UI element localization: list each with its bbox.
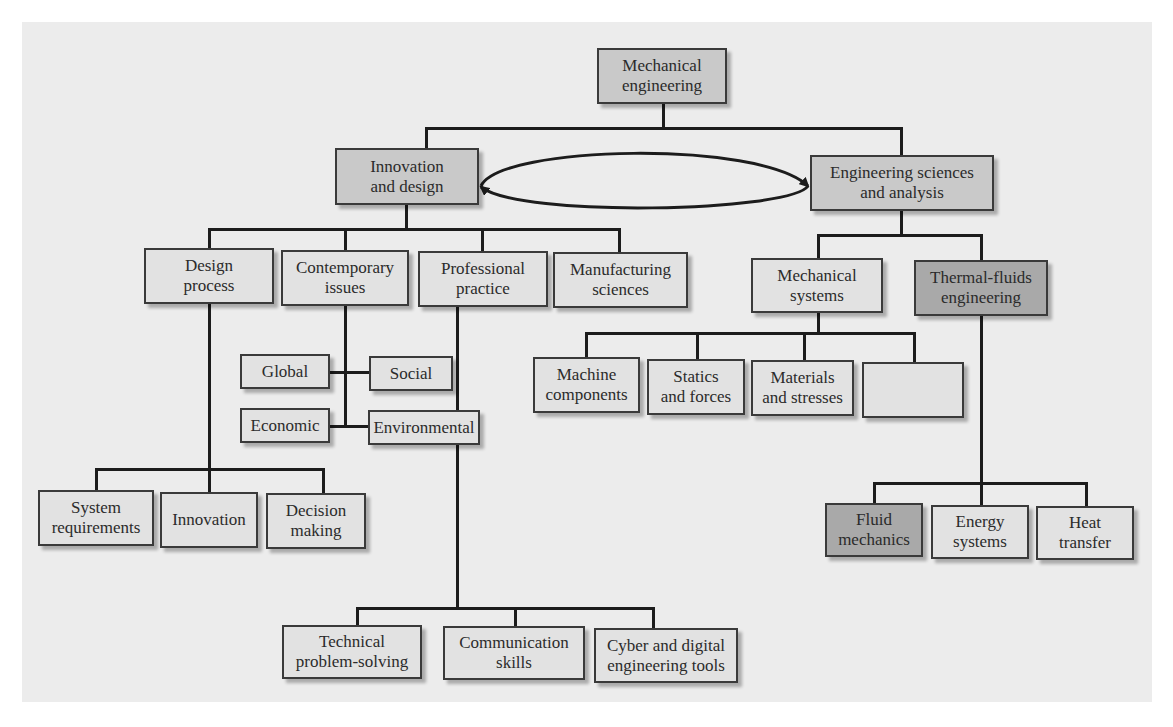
node-heat-transfer: Heat transfer: [1036, 506, 1134, 560]
node-contemporary-issues: Contemporary issues: [281, 250, 409, 306]
node-technical-problem-solving: Technical problem-solving: [282, 625, 422, 679]
node-professional-practice: Professional practice: [418, 251, 548, 307]
node-thermal-fluids-engineering: Thermal-fluids engineering: [914, 260, 1048, 316]
node-innovation: Innovation: [160, 492, 258, 548]
node-manufacturing-sciences: Manufacturing sciences: [553, 252, 688, 308]
node-decision-making: Decision making: [266, 493, 366, 549]
node-communication-skills: Communication skills: [443, 626, 585, 680]
node-global: Global: [240, 354, 330, 389]
node-mechanical-systems: Mechanical systems: [751, 258, 883, 313]
node-system-requirements: System requirements: [38, 490, 154, 546]
node-machine-components: Machine components: [533, 357, 640, 413]
node-motion-and-dynamics: [862, 362, 964, 418]
node-cyber-and-digital-engineering-tools: Cyber and digital engineering tools: [594, 628, 738, 683]
node-energy-systems: Energy systems: [931, 505, 1029, 559]
node-fluid-mechanics: Fluid mechanics: [825, 503, 923, 557]
node-design-process: Design process: [144, 248, 274, 304]
node-environmental: Environmental: [368, 410, 480, 445]
node-innovation-and-design: Innovation and design: [335, 148, 479, 205]
node-statics-and-forces: Statics and forces: [647, 359, 745, 415]
node-social: Social: [369, 356, 453, 391]
node-materials-and-stresses: Materials and stresses: [751, 360, 854, 416]
node-engineering-sciences-and-analysis: Engineering sciences and analysis: [810, 155, 994, 211]
node-economic: Economic: [240, 408, 330, 443]
node-mechanical-engineering: Mechanical engineering: [597, 48, 727, 104]
